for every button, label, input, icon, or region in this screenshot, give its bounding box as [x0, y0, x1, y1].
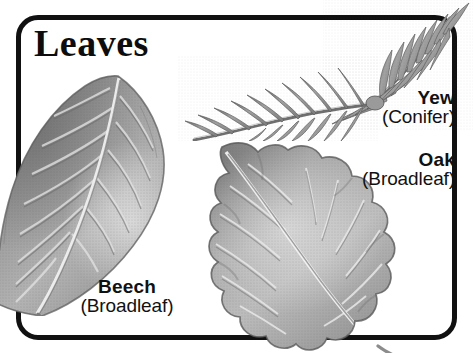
label-beech: Beech (Broadleaf) [52, 277, 202, 316]
label-yew-kind: (Conifer) [382, 107, 455, 126]
label-beech-kind: (Broadleaf) [52, 296, 202, 315]
label-yew: Yew (Conifer) [382, 88, 455, 127]
label-oak-name: Oak [362, 150, 455, 169]
leaves-poster: Leaves Yew (Conifer) Oak (Broadleaf) Bee… [0, 0, 473, 353]
label-oak-kind: (Broadleaf) [362, 169, 455, 188]
label-oak: Oak (Broadleaf) [362, 150, 455, 189]
label-beech-name: Beech [52, 277, 202, 296]
label-yew-name: Yew [382, 88, 455, 107]
page-title: Leaves [34, 24, 149, 62]
